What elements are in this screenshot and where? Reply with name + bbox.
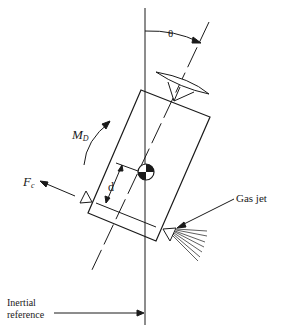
moment-symbol: M [72, 127, 83, 142]
body-axis-line [91, 22, 209, 272]
inertial-label-line2: reference [7, 310, 44, 320]
diagram-canvas: θ MD Fc d Gas jet Inertial reference [0, 0, 286, 335]
left-jet-icon [80, 191, 92, 203]
force-label: Fc [23, 175, 35, 190]
force-symbol: F [23, 174, 31, 189]
force-subscript: c [31, 181, 35, 190]
theta-label: θ [168, 28, 173, 39]
distance-label: d [108, 181, 114, 193]
diagram-svg [0, 0, 286, 335]
gas-jet-leader [180, 199, 234, 226]
center-of-gravity-icon [138, 164, 154, 180]
gas-plume [172, 229, 207, 261]
gas-jet-label: Gas jet [236, 193, 267, 204]
d-extension-bottom [96, 203, 156, 227]
moment-subscript: D [83, 134, 89, 143]
moment-label: MD [72, 128, 89, 143]
inertial-label-line1: Inertial [7, 298, 36, 308]
antenna-dish-icon [156, 72, 209, 94]
antenna-struts [168, 82, 180, 101]
theta-arrowhead-icon [192, 37, 201, 43]
